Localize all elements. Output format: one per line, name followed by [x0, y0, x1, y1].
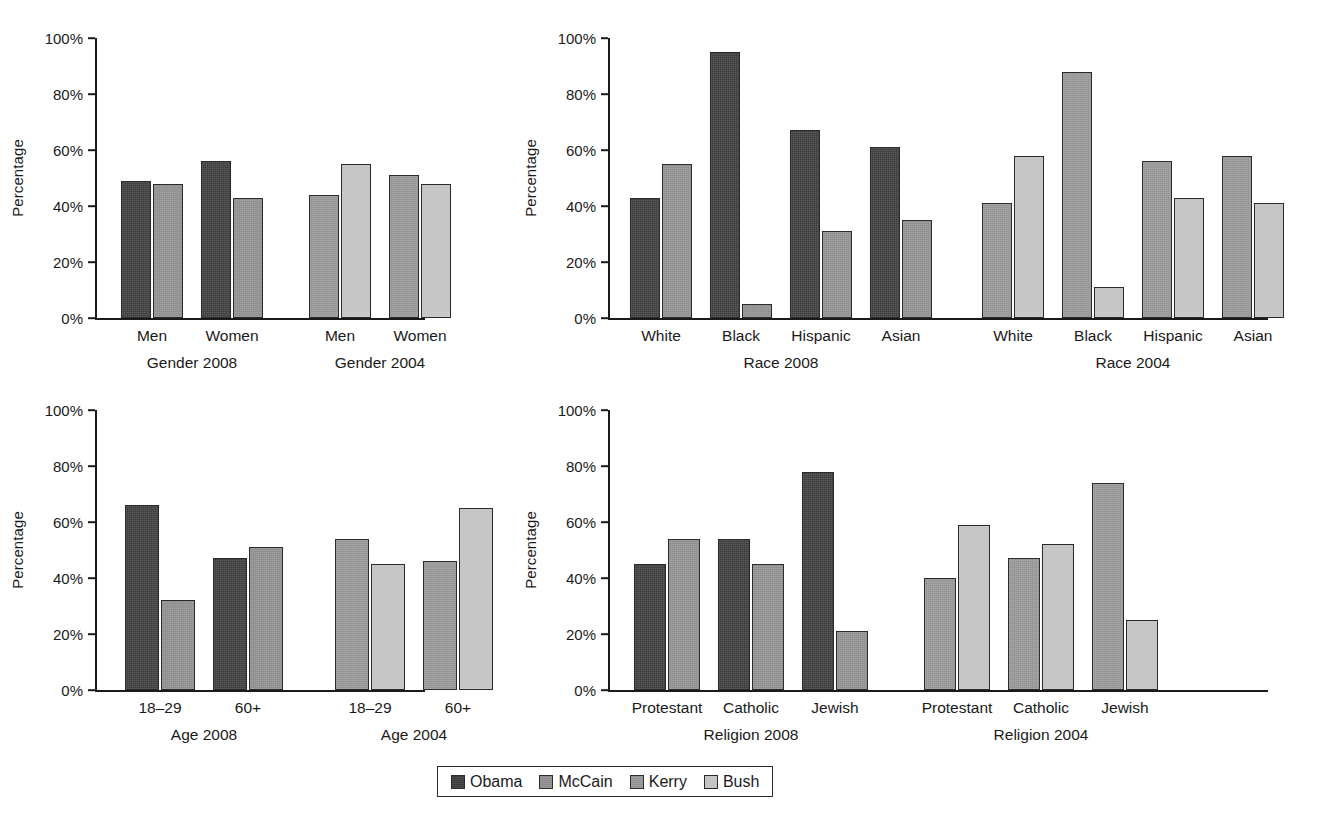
y-tick-label: 100% — [526, 402, 596, 419]
legend-swatch-bush-icon — [704, 775, 718, 789]
y-tick-label: 80% — [526, 458, 596, 475]
bar-bush-catholic — [1042, 544, 1074, 690]
y-axis-line — [608, 410, 610, 690]
chart-legend: ObamaMcCainKerryBush — [437, 766, 773, 797]
x-category-label: Jewish — [811, 699, 858, 717]
y-tick-mark — [601, 465, 608, 467]
legend-label: Kerry — [649, 773, 687, 791]
bar-mccain-catholic — [752, 564, 784, 690]
x-group-label: Religion 2004 — [994, 726, 1089, 744]
bar-mccain-protestant — [668, 539, 700, 690]
chart-panel-4: 0%20%40%60%80%100%PercentageProtestantCa… — [0, 0, 1320, 827]
figure-four-panel-exit-polls: 0%20%40%60%80%100%PercentageMenWomenGend… — [0, 0, 1320, 827]
bar-obama-jewish — [802, 472, 834, 690]
x-axis-line — [608, 690, 1268, 692]
y-tick-mark — [601, 577, 608, 579]
x-group-label: Religion 2008 — [704, 726, 799, 744]
legend-label: Bush — [723, 773, 759, 791]
bar-mccain-jewish — [836, 631, 868, 690]
legend-item-kerry[interactable]: Kerry — [630, 773, 687, 791]
y-tick-label: 0% — [526, 682, 596, 699]
legend-item-mccain[interactable]: McCain — [539, 773, 612, 791]
x-category-label: Catholic — [1013, 699, 1069, 717]
legend-item-bush[interactable]: Bush — [704, 773, 759, 791]
x-category-label: Catholic — [723, 699, 779, 717]
bar-kerry-protestant — [924, 578, 956, 690]
x-category-label: Protestant — [632, 699, 703, 717]
bar-kerry-catholic — [1008, 558, 1040, 690]
x-category-label: Protestant — [922, 699, 993, 717]
legend-swatch-mccain-icon — [539, 775, 553, 789]
legend-swatch-kerry-icon — [630, 775, 644, 789]
legend-swatch-obama-icon — [451, 775, 465, 789]
y-axis-title: Percentage — [522, 511, 539, 589]
y-tick-mark — [601, 689, 608, 691]
bar-obama-catholic — [718, 539, 750, 690]
bar-obama-protestant — [634, 564, 666, 690]
y-tick-mark — [601, 521, 608, 523]
y-tick-mark — [601, 633, 608, 635]
bar-kerry-jewish — [1092, 483, 1124, 690]
y-tick-label: 20% — [526, 626, 596, 643]
y-tick-mark — [601, 409, 608, 411]
x-category-label: Jewish — [1101, 699, 1148, 717]
bar-bush-jewish — [1126, 620, 1158, 690]
legend-label: Obama — [470, 773, 522, 791]
bar-bush-protestant — [958, 525, 990, 690]
legend-label: McCain — [558, 773, 612, 791]
legend-item-obama[interactable]: Obama — [451, 773, 522, 791]
